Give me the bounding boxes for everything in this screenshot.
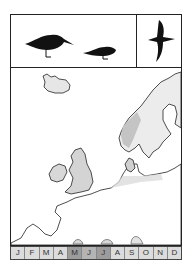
month-jan: J bbox=[11, 247, 25, 259]
ireland-landmass bbox=[49, 164, 67, 182]
month-feb: F bbox=[25, 247, 39, 259]
month-jul: J bbox=[97, 247, 111, 259]
large-wader-silhouette-icon bbox=[25, 35, 74, 57]
month-sep: S bbox=[125, 247, 139, 259]
small-wader-silhouette-icon bbox=[83, 47, 116, 59]
great-britain-landmass bbox=[65, 148, 93, 194]
month-jun: J bbox=[82, 247, 96, 259]
month-oct: O bbox=[139, 247, 153, 259]
iceland-landmass bbox=[43, 74, 70, 93]
month-dec: D bbox=[168, 247, 181, 259]
month-aug: A bbox=[111, 247, 125, 259]
range-map bbox=[11, 68, 181, 245]
month-mar: M bbox=[40, 247, 54, 259]
month-strip: J F M A M J J A S O N D bbox=[10, 246, 182, 260]
europe-map bbox=[11, 68, 181, 245]
month-may: M bbox=[68, 247, 82, 259]
silhouette-panel bbox=[11, 15, 181, 68]
silhouette-header bbox=[11, 15, 181, 68]
bird-in-flight-silhouette-icon bbox=[148, 20, 175, 62]
plate-frame bbox=[10, 14, 182, 246]
month-nov: N bbox=[154, 247, 168, 259]
header-divider bbox=[136, 15, 137, 68]
month-apr: A bbox=[54, 247, 68, 259]
